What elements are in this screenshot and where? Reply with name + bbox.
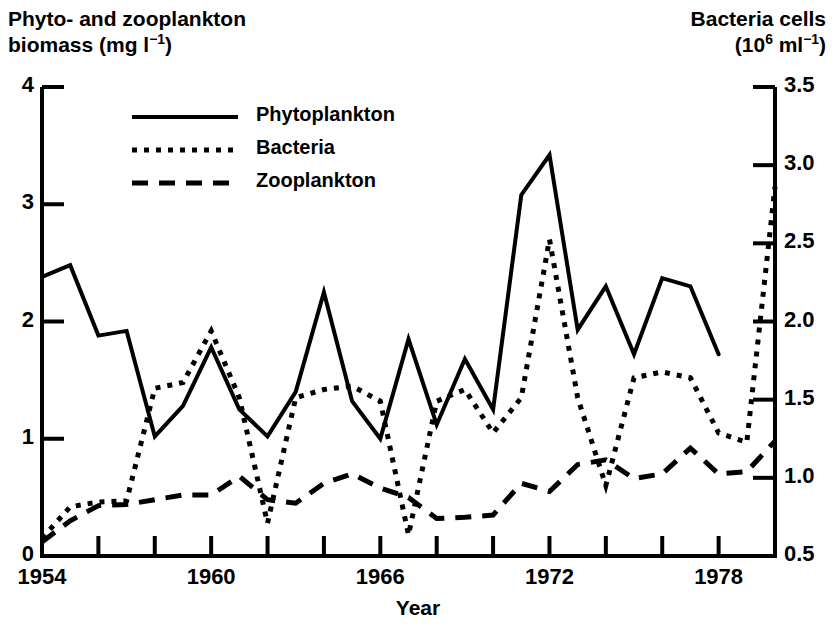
x-tick-label: 1966 <box>340 564 420 590</box>
chart-figure: Phyto- and zooplanktonbiomass (mg l−1) B… <box>0 0 836 634</box>
series-line-phytoplankton <box>42 155 719 439</box>
axis-lines <box>42 87 775 556</box>
right-tick-label: 1.5 <box>784 385 836 411</box>
x-tick-label: 1960 <box>171 564 251 590</box>
legend-sample-lines <box>132 117 238 183</box>
left-tick-label: 3 <box>0 189 34 215</box>
series-line-bacteria <box>42 187 775 539</box>
left-axis-ticks <box>42 87 64 439</box>
left-tick-label: 4 <box>0 72 34 98</box>
left-tick-label: 2 <box>0 307 34 333</box>
left-tick-label: 1 <box>0 424 34 450</box>
right-axis-ticks <box>753 87 775 556</box>
legend-label: Zooplankton <box>256 169 376 192</box>
legend-label: Bacteria <box>256 136 335 159</box>
data-series-layer <box>42 155 775 542</box>
right-tick-label: 1.0 <box>784 463 836 489</box>
right-tick-label: 3.5 <box>784 72 836 98</box>
x-tick-label: 1972 <box>509 564 589 590</box>
x-axis-ticks <box>98 536 718 556</box>
right-tick-label: 2.0 <box>784 307 836 333</box>
right-tick-label: 2.5 <box>784 228 836 254</box>
legend-label: Phytoplankton <box>256 103 395 126</box>
right-tick-label: 0.5 <box>784 541 836 567</box>
right-tick-label: 3.0 <box>784 150 836 176</box>
x-tick-label: 1954 <box>2 564 82 590</box>
x-tick-label: 1978 <box>679 564 759 590</box>
chart-plot-area <box>0 0 836 634</box>
